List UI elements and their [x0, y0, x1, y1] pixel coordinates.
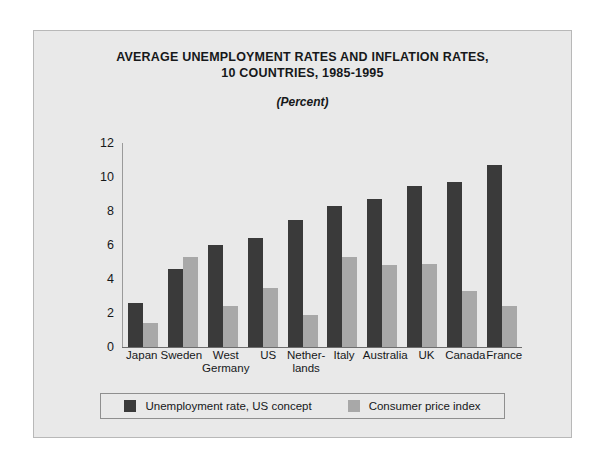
y-axis-tick-label: 6 [107, 238, 114, 252]
x-axis-category-label: Italy [325, 349, 363, 375]
x-axis-category-labels: JapanSwedenWestGermanyUSNether-landsItal… [123, 349, 523, 375]
legend-swatch-icon [124, 400, 136, 412]
bar-group [323, 143, 363, 347]
bar-group [243, 143, 283, 347]
bar-unemployment-rate [288, 220, 303, 348]
x-axis-category-label-line: lands [287, 362, 325, 375]
bar-group [442, 143, 482, 347]
legend-item: Unemployment rate, US concept [124, 400, 311, 412]
bar-unemployment-rate [168, 269, 183, 347]
bar-unemployment-rate [367, 199, 382, 347]
bar-unemployment-rate [327, 206, 342, 347]
legend-item-label: Unemployment rate, US concept [145, 400, 311, 412]
y-axis-tick-label: 0 [107, 340, 114, 354]
bar-group [163, 143, 203, 347]
y-axis-tick-label: 2 [107, 306, 114, 320]
bar-unemployment-rate [248, 238, 263, 347]
bar-group [123, 143, 163, 347]
bar-unemployment-rate [128, 303, 143, 347]
bar-unemployment-rate [208, 245, 223, 347]
x-axis-category-label-line: Germany [202, 362, 249, 375]
x-axis-category-label: WestGermany [202, 349, 249, 375]
x-axis-line [122, 347, 522, 348]
chart-title-line-1: AVERAGE UNEMPLOYMENT RATES AND INFLATION… [34, 49, 571, 65]
chart-panel: AVERAGE UNEMPLOYMENT RATES AND INFLATION… [33, 30, 572, 438]
x-axis-category-label: Canada [445, 349, 485, 375]
chart-legend: Unemployment rate, US conceptConsumer pr… [100, 393, 505, 419]
legend-item-label: Consumer price index [369, 400, 481, 412]
x-axis-category-label-line: UK [408, 349, 446, 362]
x-axis-category-label-line: West [202, 349, 249, 362]
x-axis-category-label-line: Sweden [161, 349, 203, 362]
bar-unemployment-rate [447, 182, 462, 347]
bar-group [283, 143, 323, 347]
bar-consumer-price-index [143, 323, 158, 347]
bar-group [362, 143, 402, 347]
bar-groups [123, 143, 522, 347]
bar-group [402, 143, 442, 347]
x-axis-category-label-line: Canada [445, 349, 485, 362]
x-axis-category-label-line: Japan [123, 349, 161, 362]
x-axis-category-label: Japan [123, 349, 161, 375]
bar-consumer-price-index [462, 291, 477, 347]
x-axis-category-label-line: Italy [325, 349, 363, 362]
bar-consumer-price-index [422, 264, 437, 347]
x-axis-category-label-line: France [485, 349, 523, 362]
bar-group [482, 143, 522, 347]
bar-consumer-price-index [303, 315, 318, 347]
x-axis-category-label-line: US [249, 349, 287, 362]
bar-consumer-price-index [223, 306, 238, 347]
bar-unemployment-rate [487, 165, 502, 347]
y-axis-tick-label: 4 [107, 272, 114, 286]
legend-swatch-icon [348, 400, 360, 412]
chart-title-line-2: 10 COUNTRIES, 1985-1995 [34, 65, 571, 81]
bar-unemployment-rate [407, 186, 422, 347]
chart-title-block: AVERAGE UNEMPLOYMENT RATES AND INFLATION… [34, 49, 571, 109]
legend-item: Consumer price index [348, 400, 481, 412]
bar-group [203, 143, 243, 347]
plot-area: 121086420 [122, 143, 522, 347]
x-axis-category-label: Nether-lands [287, 349, 325, 375]
bar-consumer-price-index [183, 257, 198, 347]
bar-consumer-price-index [502, 306, 517, 347]
bar-consumer-price-index [342, 257, 357, 347]
bar-consumer-price-index [263, 288, 278, 348]
y-axis-tick-label: 10 [100, 170, 114, 184]
bar-consumer-price-index [382, 265, 397, 347]
x-axis-category-label: US [249, 349, 287, 375]
y-axis-tick-label: 8 [107, 204, 114, 218]
x-axis-category-label-line: Australia [363, 349, 408, 362]
chart-subtitle: (Percent) [34, 95, 571, 109]
y-axis-tick-label: 12 [100, 136, 114, 150]
x-axis-category-label-line: Nether- [287, 349, 325, 362]
x-axis-category-label: Sweden [161, 349, 203, 375]
x-axis-category-label: France [485, 349, 523, 375]
x-axis-category-label: UK [408, 349, 446, 375]
x-axis-category-label: Australia [363, 349, 408, 375]
